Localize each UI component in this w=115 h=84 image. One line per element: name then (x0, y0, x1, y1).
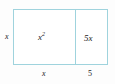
bottom-right-width-label: 5 (88, 70, 92, 78)
area-model-diagram: x2 5x x x 5 (0, 0, 115, 84)
rect-region-label: 5x (84, 34, 93, 43)
square-region-exponent: 2 (42, 31, 45, 37)
bottom-left-width-label: x (42, 70, 46, 78)
square-region-label: x2 (38, 33, 45, 42)
region-divider-line (75, 10, 76, 64)
left-height-label: x (5, 33, 9, 41)
area-model-frame (13, 9, 108, 65)
